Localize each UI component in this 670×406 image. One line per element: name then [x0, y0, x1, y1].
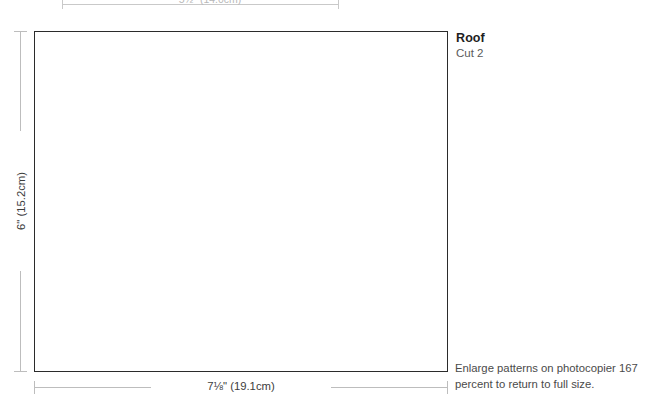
height-dimension-label: 6" (15.2cm): [14, 131, 28, 271]
previous-pattern-dimension-label: 5½" (14.0cm): [150, 0, 270, 5]
width-dimension-label: 7⅛" (19.1cm): [151, 380, 331, 392]
pattern-piece-outline: [34, 31, 448, 372]
pattern-cut-instruction: Cut 2: [456, 47, 484, 59]
pattern-title: Roof: [456, 31, 485, 45]
enlarge-instruction-note: Enlarge patterns on photocopier 167 perc…: [455, 360, 665, 392]
height-dimension-tick-bottom: [14, 371, 27, 372]
width-dimension-tick-right: [447, 381, 448, 394]
height-dimension-tick-top: [14, 31, 27, 32]
previous-pattern-dimension-tick-right: [338, 0, 339, 9]
previous-pattern-dimension-tick-left: [62, 0, 63, 9]
width-dimension-tick-left: [34, 381, 35, 394]
